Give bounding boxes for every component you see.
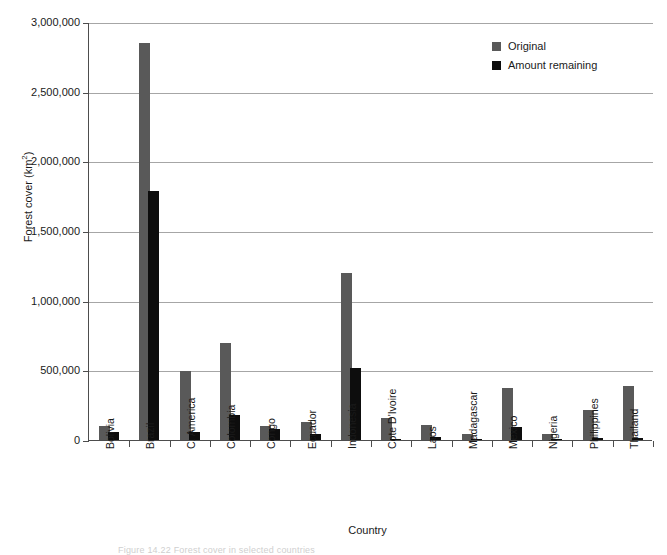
- x-axis-label-colombia: Colombia: [226, 405, 237, 449]
- x-axis-label-nigeria: Nigeria: [548, 416, 559, 449]
- y-axis-tick: [83, 232, 89, 233]
- x-axis-label-bolivia: Bolivia: [105, 418, 116, 449]
- legend: Original Amount remaining: [420, 22, 650, 78]
- y-axis-title: Forest cover (km2): [20, 112, 34, 282]
- plot-area: [88, 23, 652, 441]
- x-axis-tick: [170, 441, 171, 447]
- gridline: [89, 162, 653, 163]
- y-axis-tick: [83, 93, 89, 94]
- y-axis-tick-label: 1,500,000: [10, 226, 80, 237]
- legend-swatch-original-icon: [492, 42, 501, 51]
- x-axis-label-philippines: Philippines: [589, 398, 600, 449]
- x-axis-label-ecuador: Ecuador: [307, 410, 318, 449]
- y-axis-tick-label: 2,000,000: [10, 156, 80, 167]
- x-axis-title-text: Country: [348, 524, 387, 536]
- x-axis-title: Country: [0, 524, 667, 536]
- y-axis-tick: [83, 371, 89, 372]
- y-axis-tick: [83, 302, 89, 303]
- legend-label-remaining: Amount remaining: [508, 59, 597, 71]
- legend-swatch-remaining-icon: [492, 61, 501, 70]
- x-axis-tick: [290, 441, 291, 447]
- y-axis-tick-label: 0: [10, 435, 80, 446]
- x-axis-label-cote-d-ivoire: Cote D'Ivoire: [387, 389, 398, 449]
- gridline: [89, 302, 653, 303]
- x-axis-label-indonesia: Indonesia: [347, 403, 358, 449]
- x-axis-label-mexico: Mexico: [508, 416, 519, 449]
- x-axis-label-c-america: C. America: [186, 398, 197, 449]
- x-axis-tick: [129, 441, 130, 447]
- x-axis-tick: [532, 441, 533, 447]
- x-axis-label-madagascar: Madagascar: [468, 391, 479, 449]
- y-axis-tick-label: 3,000,000: [10, 17, 80, 28]
- legend-item-remaining: Amount remaining: [492, 59, 650, 71]
- x-axis-tick: [653, 441, 654, 447]
- y-axis-tick-label: 2,500,000: [10, 87, 80, 98]
- x-axis-label-thailand: Thailand: [629, 409, 640, 449]
- x-axis-tick: [210, 441, 211, 447]
- x-axis-tick: [371, 441, 372, 447]
- y-axis-tick-label: 500,000: [10, 365, 80, 376]
- x-axis-tick: [411, 441, 412, 447]
- legend-item-original: Original: [492, 40, 650, 52]
- x-axis-label-congo: Congo: [266, 418, 277, 449]
- bar-amount-remaining: [148, 191, 159, 440]
- gridline: [89, 232, 653, 233]
- x-axis-tick: [250, 441, 251, 447]
- gridline: [89, 371, 653, 372]
- gridline: [89, 93, 653, 94]
- x-axis-tick: [452, 441, 453, 447]
- y-axis-tick: [83, 162, 89, 163]
- x-axis-tick: [613, 441, 614, 447]
- x-axis-tick: [492, 441, 493, 447]
- y-axis-tick: [83, 23, 89, 24]
- y-axis-tick: [83, 441, 89, 442]
- figure-caption: Figure 14.22 Forest cover in selected co…: [118, 545, 315, 555]
- x-axis-tick: [572, 441, 573, 447]
- x-axis-label-brazil: Brazil: [145, 423, 156, 449]
- legend-label-original: Original: [508, 40, 546, 52]
- x-axis-tick: [331, 441, 332, 447]
- y-axis-tick-label: 1,000,000: [10, 296, 80, 307]
- x-axis-label-laos: Laos: [427, 426, 438, 449]
